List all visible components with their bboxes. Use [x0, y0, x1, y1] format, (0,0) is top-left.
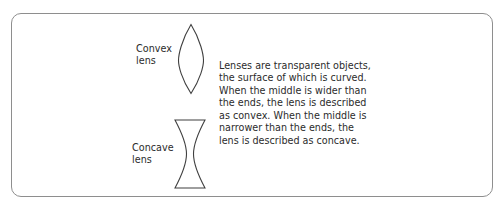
lens-description-text: Lenses are transparent objects, the surf… — [219, 60, 371, 147]
concave-lens-label: Concave lens — [132, 142, 190, 167]
convex-lens-label: Convex lens — [136, 43, 190, 68]
figure-canvas: Convex lens Concave lens Lenses are tran… — [0, 0, 504, 213]
